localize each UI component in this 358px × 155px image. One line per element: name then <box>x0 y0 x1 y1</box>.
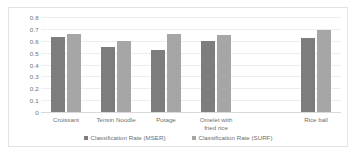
bar-group-bars <box>241 17 291 112</box>
y-axis-tick-labels: 0.80.70.60.50.40.30.20.10 <box>13 17 39 112</box>
bar[interactable] <box>317 30 331 112</box>
bar-group-bars <box>191 17 241 112</box>
bar-group-bars <box>41 17 91 112</box>
legend-swatch-icon <box>192 136 196 140</box>
y-axis-tick: 0.5 <box>30 49 39 56</box>
bar-group-bars <box>291 17 341 112</box>
plot-wrapper: 0.80.70.60.50.40.30.20.10 CroissantTensi… <box>9 8 347 146</box>
y-axis-tick: 0.6 <box>30 37 39 44</box>
y-axis-tick: 0.3 <box>30 73 39 80</box>
bar-group-bars <box>141 17 191 112</box>
x-axis-label: Potage <box>141 114 191 136</box>
legend-label: Classification Rate (SURF) <box>199 134 273 141</box>
bar[interactable] <box>117 41 131 112</box>
y-axis-tick: 0.4 <box>30 61 39 68</box>
y-axis-tick: 0.7 <box>30 25 39 32</box>
bar[interactable] <box>301 38 315 112</box>
bar[interactable] <box>201 41 215 112</box>
bar-group <box>91 17 141 112</box>
x-axis-label: Tensin Noodle <box>91 114 141 136</box>
legend-item[interactable]: Classification Rate (MSER) <box>84 134 166 141</box>
y-axis-tick: 0.8 <box>30 14 39 21</box>
bar[interactable] <box>51 37 65 112</box>
x-axis-label: Rice ball <box>291 114 341 136</box>
bar[interactable] <box>101 47 115 112</box>
bar-group <box>191 17 241 112</box>
legend-label: Classification Rate (MSER) <box>91 134 166 141</box>
x-axis-label: Croissant <box>41 114 91 136</box>
x-axis-label: Omelet with fried rice <box>191 114 241 136</box>
bar[interactable] <box>217 35 231 112</box>
bar[interactable] <box>167 34 181 112</box>
chart-container: 0.80.70.60.50.40.30.20.10 CroissantTensi… <box>8 7 348 147</box>
bar-group <box>41 17 91 112</box>
legend-swatch-icon <box>84 136 88 140</box>
y-axis-tick: 0.2 <box>30 85 39 92</box>
y-axis-tick: 0 <box>35 109 39 116</box>
x-axis-category-labels: CroissantTensin NoodlePotageOmelet with … <box>41 114 341 136</box>
bar-group <box>141 17 191 112</box>
y-axis-tick: 0.1 <box>30 97 39 104</box>
plot-area <box>41 17 341 112</box>
bar[interactable] <box>67 34 81 112</box>
chart-legend: Classification Rate (MSER)Classification… <box>9 134 347 141</box>
bar-group <box>241 17 291 112</box>
axis-baseline <box>41 112 341 113</box>
legend-item[interactable]: Classification Rate (SURF) <box>192 134 273 141</box>
bar-group-bars <box>91 17 141 112</box>
bar-group <box>291 17 341 112</box>
bar-groups <box>41 17 341 112</box>
bar[interactable] <box>151 50 165 112</box>
x-axis-label <box>241 114 291 136</box>
